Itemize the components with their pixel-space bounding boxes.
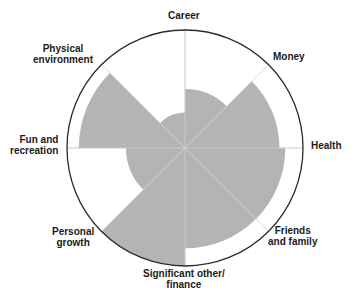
fun-line-2: recreation [10,145,58,156]
health-text: Health [311,140,342,151]
fun-line-1: Fun and [10,134,58,145]
label-physical-environment: Physical environment [33,43,93,65]
significant-line-1: Significant other/ [143,268,225,279]
label-significant-other: Significant other/ finance [143,268,225,290]
label-fun-and-recreation: Fun and recreation [10,134,58,156]
personal-line-2: growth [52,237,94,248]
sector-6 [79,73,185,148]
physical-line-2: environment [33,54,93,65]
physical-line-1: Physical [33,43,93,54]
label-career: Career [168,10,200,21]
personal-line-1: Personal [52,226,94,237]
significant-line-2: finance [143,279,225,290]
label-health: Health [311,140,342,151]
label-friends-and-family: Friends and family [268,225,317,247]
friends-line-1: Friends [268,225,317,236]
label-personal-growth: Personal growth [52,226,94,248]
career-text: Career [168,10,200,21]
sectors [79,73,285,266]
label-money: Money [273,51,305,62]
money-text: Money [273,51,305,62]
friends-line-2: and family [268,236,317,247]
